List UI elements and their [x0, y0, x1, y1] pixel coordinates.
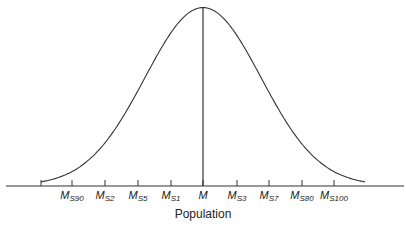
tick-label: MS90 — [60, 189, 83, 203]
tick-label: MS3 — [228, 189, 247, 203]
tick-label: M — [198, 189, 207, 201]
tick-label: MS7 — [260, 189, 279, 203]
tick-label: MS80 — [290, 189, 313, 203]
tick-label: MS100 — [320, 189, 348, 203]
tick-label: MS5 — [129, 189, 148, 203]
tick-label: MS2 — [96, 189, 115, 203]
tick-label: MS1 — [162, 189, 181, 203]
x-axis-label: Population — [175, 207, 232, 221]
tick-marks — [41, 180, 334, 186]
